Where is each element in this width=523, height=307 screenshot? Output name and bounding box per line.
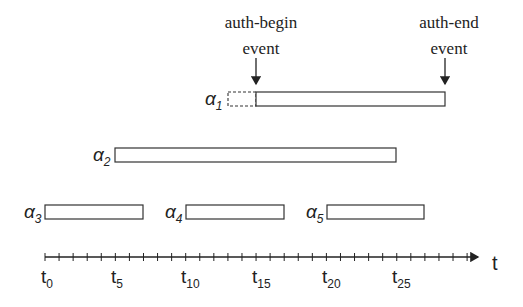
timeline-diagram: auth-begin event auth-end event α1 α2 α3… [0, 0, 523, 307]
tick-label-t0: t0 [41, 266, 53, 291]
auth-begin-annotation: auth-begin event [225, 13, 298, 84]
tick-label-t20: t20 [322, 266, 341, 291]
interval-label: α5 [306, 201, 324, 226]
auth-begin-event-label: event [243, 39, 280, 58]
tick-label-t15: t15 [252, 266, 271, 291]
tick-label-t25: t25 [392, 266, 411, 291]
interval-bar [115, 148, 396, 162]
tick-label-t10: t10 [181, 266, 200, 291]
interval-label: α1 [205, 88, 223, 113]
interval-bar [327, 205, 424, 219]
interval-bar [256, 92, 445, 106]
interval-a1: α1 [205, 88, 445, 113]
axis-label: t [492, 252, 498, 274]
interval-label: α2 [93, 144, 111, 169]
time-axis: t t0 t5 t10 t15 t20 t25 [41, 252, 498, 291]
interval-a2: α2 [93, 144, 396, 169]
interval-bar [186, 205, 284, 219]
interval-bar [45, 205, 143, 219]
auth-end-event-label: event [431, 39, 468, 58]
tick-labels: t0 t5 t10 t15 t20 t25 [41, 266, 411, 291]
interval-a5: α5 [306, 201, 424, 226]
auth-end-label: auth-end [419, 13, 479, 32]
auth-begin-label: auth-begin [225, 13, 298, 32]
interval-a4: α4 [165, 201, 284, 226]
interval-label: α3 [24, 201, 42, 226]
auth-end-annotation: auth-end event [419, 13, 479, 84]
tick-label-t5: t5 [111, 266, 123, 291]
interval-a3: α3 [24, 201, 143, 226]
dashed-prefix-box [228, 92, 256, 106]
interval-label: α4 [165, 201, 183, 226]
